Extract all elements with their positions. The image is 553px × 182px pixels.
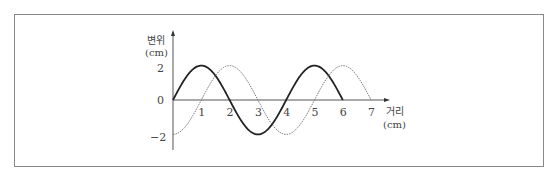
y-axis-label-line1: 변위 bbox=[147, 34, 165, 46]
y-tick-minus2: −2 bbox=[150, 131, 166, 144]
x-tick-1: 1 bbox=[198, 106, 205, 119]
x-tick-4: 4 bbox=[283, 106, 290, 119]
y-axis-arrow-icon bbox=[171, 30, 175, 36]
x-axis-arrow-icon bbox=[384, 98, 390, 102]
y-tick-0: 0 bbox=[157, 94, 164, 107]
y-axis-label-line2: (cm) bbox=[145, 47, 168, 58]
y-tick-2: 2 bbox=[157, 62, 164, 75]
x-tick-3: 3 bbox=[255, 106, 262, 119]
x-tick-2: 2 bbox=[227, 106, 234, 119]
x-axis-label-line1b: 거리 bbox=[386, 106, 404, 117]
x-axis-label-line2: (cm) bbox=[383, 119, 406, 130]
x-tick-7: 7 bbox=[368, 106, 375, 119]
x-tick-6: 6 bbox=[340, 106, 347, 119]
wave-chart: 변위 (cm) 2 0 −2 1234567 거리 (cm) bbox=[0, 0, 553, 182]
x-tick-5: 5 bbox=[312, 106, 319, 119]
